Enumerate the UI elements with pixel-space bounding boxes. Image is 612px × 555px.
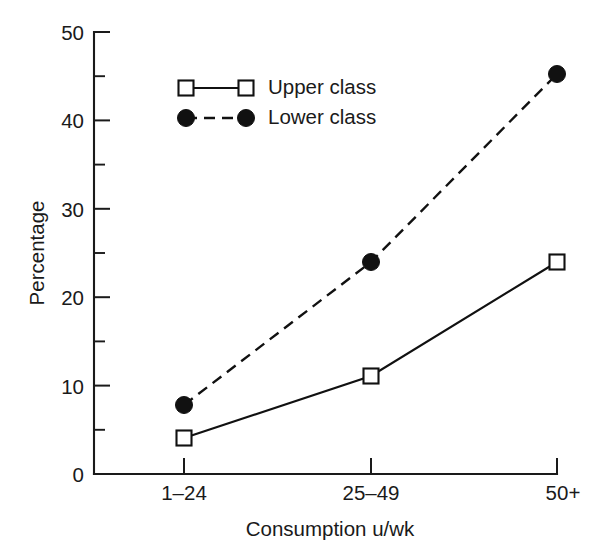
open-square-icon	[179, 81, 194, 96]
y-tick-label-30: 30	[61, 198, 84, 221]
data-point-upper-class-1-24	[177, 431, 192, 446]
line-chart-figure: 50 40 30 20 10 0 Percentage 1–24 25–49 5…	[0, 0, 612, 555]
data-point-upper-class-25-49	[364, 369, 379, 384]
legend-entry-lower-class: Lower class	[178, 105, 377, 128]
x-axis-title: Consumption u/wk	[246, 517, 415, 540]
data-point-lower-class-1-24	[176, 397, 193, 414]
chart-legend: Upper class Lower class	[178, 75, 377, 128]
data-point-upper-class-50-plus	[550, 255, 565, 270]
data-point-lower-class-25-49	[363, 254, 380, 271]
y-axis-title: Percentage	[25, 201, 48, 306]
legend-entry-upper-class: Upper class	[179, 75, 377, 98]
x-axis-ticks	[184, 458, 557, 474]
y-tick-label-50: 50	[61, 21, 84, 44]
filled-circle-icon-end	[238, 110, 255, 127]
legend-label-lower-class: Lower class	[268, 105, 376, 128]
y-tick-label-40: 40	[61, 109, 84, 132]
y-tick-label-0: 0	[73, 463, 84, 486]
x-tick-label-25-49: 25–49	[342, 481, 399, 504]
x-axis-tick-labels: 1–24 25–49 50+	[161, 481, 580, 504]
series-upper-class	[177, 255, 565, 446]
y-axis-tick-labels: 50 40 30 20 10 0	[61, 21, 84, 486]
y-axis-minor-ticks	[94, 76, 105, 430]
data-point-lower-class-50-plus	[549, 66, 566, 83]
y-axis-major-ticks	[94, 120, 110, 474]
x-tick-label-50-plus: 50+	[546, 481, 581, 504]
filled-circle-icon	[178, 110, 195, 127]
series-upper-class-line	[184, 262, 557, 438]
y-tick-label-10: 10	[61, 375, 84, 398]
y-tick-label-20: 20	[61, 286, 84, 309]
legend-label-upper-class: Upper class	[268, 75, 376, 98]
x-tick-label-1-24: 1–24	[161, 481, 207, 504]
chart-canvas: 50 40 30 20 10 0 Percentage 1–24 25–49 5…	[0, 0, 612, 555]
open-square-icon-end	[239, 81, 254, 96]
